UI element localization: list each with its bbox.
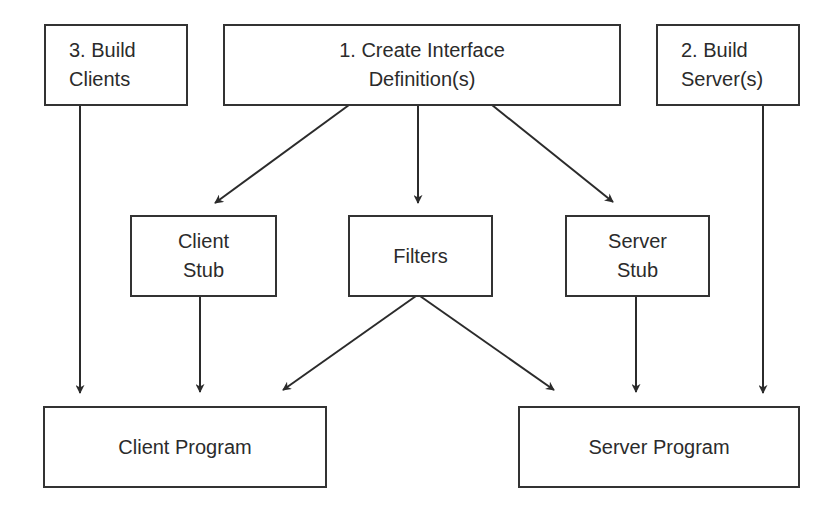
edge-filters-to-client-program — [283, 296, 416, 390]
node-label: Server Program — [588, 433, 729, 462]
node-label: Client Stub — [178, 227, 229, 285]
edge-idl-to-client-stub — [215, 105, 349, 203]
node-server-stub: Server Stub — [565, 215, 710, 297]
node-server-program: Server Program — [518, 406, 800, 488]
edge-filters-to-server-program — [420, 296, 554, 390]
node-client-program: Client Program — [43, 406, 327, 488]
node-label: Filters — [393, 242, 447, 271]
node-build-servers: 2. Build Server(s) — [656, 24, 800, 106]
node-label: Server Stub — [608, 227, 667, 285]
node-label: 2. Build Server(s) — [658, 36, 763, 94]
node-create-interface-definitions: 1. Create Interface Definition(s) — [223, 24, 621, 106]
node-client-stub: Client Stub — [130, 215, 277, 297]
node-filters: Filters — [348, 215, 493, 297]
node-label: 1. Create Interface Definition(s) — [339, 36, 505, 94]
edge-idl-to-server-stub — [492, 105, 613, 202]
node-build-clients: 3. Build Clients — [44, 24, 188, 106]
node-label: 3. Build Clients — [46, 36, 136, 94]
node-label: Client Program — [118, 433, 251, 462]
